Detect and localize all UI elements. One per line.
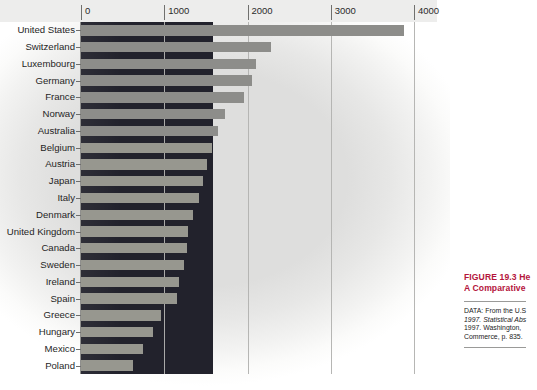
bar-sweden: [81, 260, 184, 270]
bar-austria: [81, 159, 207, 169]
bar-spain: [81, 293, 177, 303]
y-label-canada: Canada: [41, 242, 75, 253]
x-tick-label: 3000: [335, 0, 356, 22]
bar-norway: [81, 109, 225, 119]
bar-australia: [81, 126, 218, 136]
figure-caption: FIGURE 19.3 He A Comparative DATA: From …: [464, 272, 537, 348]
bar-row: [81, 290, 414, 307]
y-tick-mark: [76, 265, 81, 266]
bar-germany: [81, 75, 252, 85]
source-line-1: DATA: From the U.S: [464, 307, 537, 316]
bar-row: [81, 206, 414, 223]
y-label-italy: Italy: [57, 192, 75, 203]
x-tick-label: 0: [85, 0, 90, 22]
y-tick-mark: [76, 148, 81, 149]
bar-denmark: [81, 210, 193, 220]
y-tick-mark: [76, 30, 81, 31]
bar-switzerland: [81, 42, 271, 52]
y-tick-mark: [76, 232, 81, 233]
bar-row: [81, 156, 414, 173]
y-label-mexico: Mexico: [45, 343, 75, 354]
y-label-poland: Poland: [45, 360, 75, 371]
y-label-denmark: Denmark: [36, 209, 75, 220]
y-tick-mark: [76, 131, 81, 132]
y-label-spain: Spain: [50, 293, 75, 304]
y-label-belgium: Belgium: [40, 142, 75, 153]
bar-row: [81, 240, 414, 257]
bar-row: [81, 106, 414, 123]
source-line-3: 1997. Washington,: [464, 324, 537, 333]
bar-row: [81, 173, 414, 190]
bar-series: [81, 22, 414, 374]
y-tick-mark: [76, 248, 81, 249]
y-tick-mark: [76, 349, 81, 350]
y-tick-mark: [76, 299, 81, 300]
bar-row: [81, 39, 414, 56]
x-tick-label: 4000: [418, 0, 439, 22]
bar-ireland: [81, 277, 179, 287]
x-axis-ticks: 01000200030004000: [81, 0, 437, 22]
bar-france: [81, 92, 244, 102]
x-tick-label: 1000: [168, 0, 189, 22]
plot-area: [81, 22, 414, 374]
bar-row: [81, 223, 414, 240]
y-tick-mark: [76, 198, 81, 199]
y-label-switzerland: Switzerland: [25, 41, 75, 52]
bar-row: [81, 357, 414, 374]
bar-united-kingdom: [81, 226, 188, 236]
y-label-australia: Australia: [38, 125, 75, 136]
y-label-japan: Japan: [49, 175, 75, 186]
bar-row: [81, 340, 414, 357]
caption-divider-bottom: [464, 347, 526, 348]
bar-row: [81, 89, 414, 106]
bar-row: [81, 139, 414, 156]
y-tick-mark: [76, 97, 81, 98]
y-tick-mark: [76, 315, 81, 316]
x-tick-mark: [81, 5, 82, 20]
y-label-ireland: Ireland: [46, 276, 75, 287]
bar-united-states: [81, 25, 404, 35]
source-line-4: Commerce, p. 835.: [464, 333, 537, 342]
y-tick-mark: [76, 181, 81, 182]
y-tick-mark: [76, 332, 81, 333]
bar-row: [81, 190, 414, 207]
x-tick-label: 2000: [252, 0, 273, 22]
bar-row: [81, 324, 414, 341]
bar-poland: [81, 360, 133, 370]
source-line-2: 1997. Statistical Abs: [464, 316, 537, 325]
y-tick-mark: [76, 81, 81, 82]
bar-hungary: [81, 327, 153, 337]
x-tick-mark: [331, 5, 332, 20]
bar-japan: [81, 176, 203, 186]
caption-divider-top: [464, 301, 526, 302]
bar-canada: [81, 243, 187, 253]
y-tick-mark: [76, 64, 81, 65]
y-label-luxembourg: Luxembourg: [22, 58, 75, 69]
x-tick-mark: [248, 5, 249, 20]
bar-row: [81, 273, 414, 290]
y-label-united-kingdom: United Kingdom: [7, 226, 75, 237]
bar-belgium: [81, 143, 212, 153]
bar-row: [81, 72, 414, 89]
y-label-germany: Germany: [36, 75, 75, 86]
x-tick-mark: [164, 5, 165, 20]
y-label-france: France: [45, 91, 75, 102]
figure-title-line-2: A Comparative: [464, 283, 537, 294]
y-axis-labels: United StatesSwitzerlandLuxembourgGerman…: [0, 22, 79, 374]
figure-title-line-1: FIGURE 19.3 He: [464, 272, 537, 283]
x-tick-mark: [414, 5, 415, 20]
y-tick-mark: [76, 47, 81, 48]
y-label-austria: Austria: [45, 158, 75, 169]
bar-chart: 01000200030004000 United StatesSwitzerla…: [0, 0, 437, 374]
gridline-4000: [414, 22, 415, 374]
y-tick-mark: [76, 164, 81, 165]
bar-row: [81, 257, 414, 274]
y-label-sweden: Sweden: [40, 259, 75, 270]
y-label-greece: Greece: [44, 309, 75, 320]
bar-row: [81, 307, 414, 324]
bar-mexico: [81, 344, 143, 354]
y-tick-mark: [76, 366, 81, 367]
bar-row: [81, 22, 414, 39]
y-tick-mark: [76, 114, 81, 115]
